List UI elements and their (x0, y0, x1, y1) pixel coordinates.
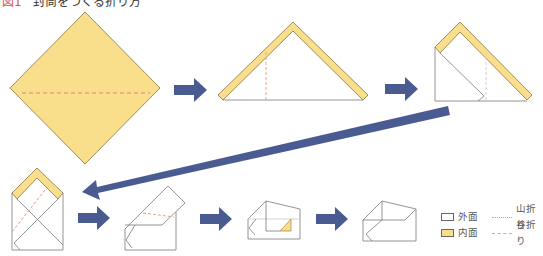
step-7-finished-envelope (363, 201, 416, 241)
legend-label: 内面 (458, 225, 492, 241)
arrow-right-icon (78, 206, 110, 230)
legend-label: 外面 (458, 209, 492, 225)
arrow-right-icon (200, 207, 232, 231)
mountain-fold-line-sample (492, 217, 512, 218)
step-3-folded-side (435, 22, 532, 101)
legend-row-inner: 内面 谷折り (441, 225, 543, 241)
arrow-return-icon (82, 106, 450, 200)
step-2-triangle (218, 22, 368, 100)
inner-surface-swatch (441, 229, 454, 237)
arrow-right-icon (385, 77, 418, 101)
step-1-diamond (10, 12, 160, 164)
step-6-box (248, 201, 300, 239)
arrow-right-icon (316, 207, 348, 231)
step-4-envelope (12, 168, 63, 250)
legend: 外面 山折り 内面 谷折り (441, 209, 543, 241)
legend-line-label: 谷折り (516, 217, 543, 249)
outer-surface-swatch (441, 213, 454, 221)
valley-fold-line-sample (492, 233, 512, 234)
step-5-flap-fold (125, 186, 185, 250)
arrow-right-icon (174, 78, 207, 102)
